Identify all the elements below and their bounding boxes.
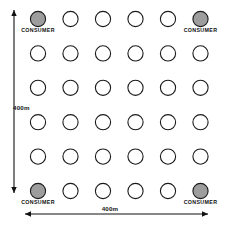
sensor-node (160, 115, 175, 130)
consumer-top-left-label: CONSUMER (21, 27, 55, 33)
diagram-canvas: CONSUMERCONSUMERCONSUMERCONSUMER 400m 40… (0, 0, 228, 230)
sensor-node (128, 115, 143, 130)
sensor-node (63, 149, 78, 164)
sensor-node (95, 11, 110, 26)
consumer-bottom-left-label: CONSUMER (21, 199, 55, 205)
sensor-node (30, 149, 45, 164)
vertical-dimension-label: 400m (13, 104, 30, 111)
sensor-node (63, 115, 78, 130)
sensor-node (128, 11, 143, 26)
sensor-node (128, 46, 143, 61)
sensor-node (95, 183, 110, 198)
consumer-node (193, 183, 208, 198)
consumer-top-right-label: CONSUMER (184, 27, 218, 33)
sensor-node (95, 149, 110, 164)
sensor-node (160, 11, 175, 26)
sensor-node (160, 183, 175, 198)
consumer-label-group: CONSUMERCONSUMERCONSUMERCONSUMER (21, 27, 217, 205)
sensor-node (95, 80, 110, 95)
sensor-node (160, 149, 175, 164)
vertical-arrow-head-up-icon (11, 10, 16, 16)
horizontal-arrow-head-right-icon (202, 211, 208, 216)
vertical-dimension: 400m (11, 10, 30, 193)
sensor-node (128, 183, 143, 198)
sensor-node (63, 11, 78, 26)
consumer-node (193, 11, 208, 26)
sensor-node (160, 46, 175, 61)
sensor-node (128, 80, 143, 95)
sensor-node (63, 80, 78, 95)
sensor-node (193, 115, 208, 130)
horizontal-arrow-head-left-icon (25, 211, 31, 216)
sensor-node (63, 183, 78, 198)
sensor-node (30, 46, 45, 61)
consumer-node (30, 11, 45, 26)
sensor-node (193, 80, 208, 95)
horizontal-dimension-label: 400m (102, 205, 119, 212)
sensor-node (193, 149, 208, 164)
consumer-grid-diagram: CONSUMERCONSUMERCONSUMERCONSUMER 400m 40… (0, 0, 228, 230)
sensor-node (30, 115, 45, 130)
node-grid (30, 11, 208, 198)
sensor-node (63, 46, 78, 61)
sensor-node (95, 115, 110, 130)
horizontal-dimension: 400m (25, 205, 208, 217)
consumer-node (30, 183, 45, 198)
vertical-arrow-head-down-icon (11, 187, 16, 193)
sensor-node (128, 149, 143, 164)
sensor-node (193, 46, 208, 61)
sensor-node (95, 46, 110, 61)
sensor-node (160, 80, 175, 95)
consumer-bottom-right-label: CONSUMER (184, 199, 218, 205)
sensor-node (30, 80, 45, 95)
